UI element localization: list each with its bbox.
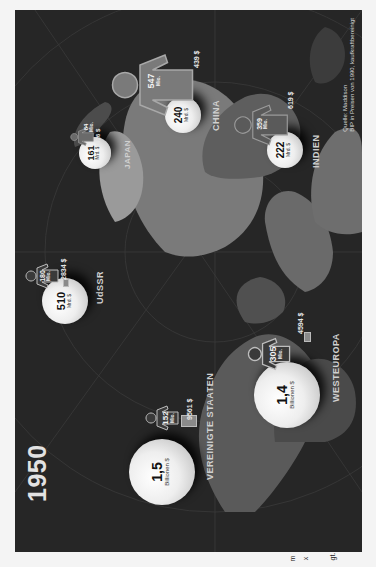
region-label-udssr: UdSSR xyxy=(95,271,105,304)
region-label-usa: VEREINIGTE STAATEN xyxy=(205,373,215,480)
source-note: Quelle: Maddison BIP in Preisen von 1990… xyxy=(342,18,356,132)
footer-fragment-3: gt. xyxy=(329,553,336,561)
per-capita-bar-westeuropa xyxy=(304,332,311,342)
population-udssr: 180 Mio. xyxy=(39,266,51,286)
population-japan: 84 Mio. xyxy=(83,120,94,134)
gdp-unit: Billionen $ xyxy=(164,439,170,505)
infographic-frame: 1950 1,5 Billionen $ 152 Mio. 9561 $ VER… xyxy=(15,10,362,552)
region-label-china: CHINA xyxy=(211,100,221,131)
gdp-ball-usa: 1,5 Billionen $ xyxy=(129,439,195,505)
gdp-value: 1,5 xyxy=(150,439,164,505)
population-usa: 152 Mio. xyxy=(162,408,175,428)
population-china: 547 Mio. xyxy=(147,71,161,91)
per-capita-japan: 1926 $ xyxy=(95,129,101,147)
infographic-panel: 1950 1,5 Billionen $ 152 Mio. 9561 $ VER… xyxy=(15,10,362,552)
per-capita-westeuropa: 4594 $ xyxy=(297,313,304,334)
year-title: 1950 xyxy=(23,444,52,502)
per-capita-usa: 9561 $ xyxy=(186,399,193,420)
population-indien: 359 Mio. xyxy=(256,116,268,132)
footer-fragment-1: m xyxy=(289,556,296,562)
region-label-japan: JAPAN xyxy=(123,140,132,169)
region-label-westeuropa: WESTEUROPA xyxy=(331,333,341,402)
per-capita-china: 439 $ xyxy=(193,50,200,68)
per-capita-bar-udssr xyxy=(63,279,69,287)
region-label-indien: INDIEN xyxy=(311,134,321,168)
per-capita-indien: 619 $ xyxy=(287,91,294,109)
population-westeuropa: 305 Mio. xyxy=(269,343,283,365)
footer-fragment-2: x xyxy=(302,557,309,561)
per-capita-udssr: 2834 $ xyxy=(60,259,67,280)
